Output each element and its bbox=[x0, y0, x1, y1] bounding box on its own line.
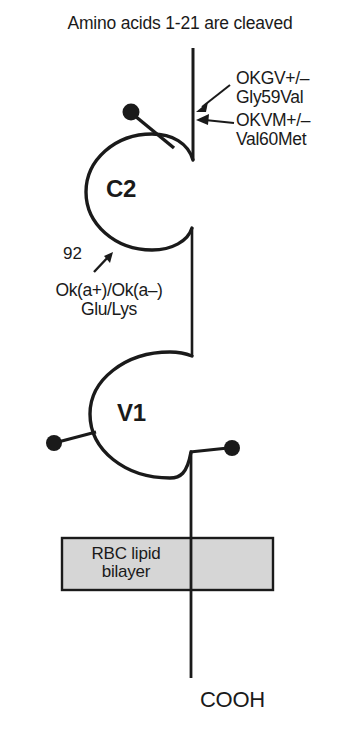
okvm-allele-text: OKVM+/– bbox=[236, 110, 310, 130]
c2-glycan-icon bbox=[123, 104, 140, 121]
residue-92-label: 92 bbox=[63, 245, 82, 263]
protein-topology-diagram: Amino acids 1-21 are cleaved OKGV+/–Gly5… bbox=[0, 0, 360, 733]
okvm-arrowhead-icon bbox=[196, 114, 209, 125]
okvm-leader-arrow-icon bbox=[205, 120, 234, 123]
okvm-mutation-text: Val60Met bbox=[236, 129, 306, 149]
c2-glycan-stem bbox=[135, 116, 174, 148]
rbc-lipid-bilayer-label: RBC lipidbilayer bbox=[62, 545, 190, 581]
v1-glycan-right-icon bbox=[224, 440, 240, 456]
annotation-oka-polymorphism: Ok(a+)/Ok(a–)Glu/Lys bbox=[13, 281, 205, 318]
oka-allele-text: Ok(a+)/Ok(a–) bbox=[55, 280, 162, 300]
v1-glycan-right-stem bbox=[190, 448, 228, 452]
bilayer-label-line1: RBC lipid bbox=[91, 544, 160, 563]
annotation-okvm: OKVM+/–Val60Met bbox=[236, 111, 310, 148]
okgv-mutation-text: Gly59Val bbox=[236, 87, 303, 107]
oka-residues-text: Glu/Lys bbox=[81, 299, 137, 319]
v1-glycan-left-stem bbox=[58, 432, 96, 442]
okgv-allele-text: OKGV+/– bbox=[236, 68, 309, 88]
v1-domain-label: V1 bbox=[117, 400, 146, 425]
page-title: Amino acids 1-21 are cleaved bbox=[0, 14, 360, 33]
c2-domain-loop bbox=[86, 134, 193, 250]
v1-glycan-left-icon bbox=[46, 435, 62, 451]
annotation-okgv: OKGV+/–Gly59Val bbox=[236, 69, 309, 106]
bilayer-label-line2: bilayer bbox=[102, 562, 151, 581]
c-terminus-label: COOH bbox=[200, 688, 265, 711]
c2-domain-label: C2 bbox=[106, 176, 136, 201]
